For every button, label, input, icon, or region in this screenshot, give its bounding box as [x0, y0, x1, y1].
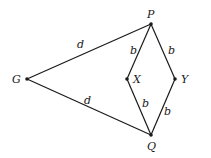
node-label-y: Y [181, 73, 190, 86]
edge-label-x-q: b [142, 97, 149, 110]
node-label-g: G [12, 73, 21, 86]
node-g [25, 77, 29, 81]
edge-label-g-p: d [77, 38, 84, 51]
edge-label-p-x: b [130, 44, 137, 57]
node-label-x: X [132, 73, 142, 86]
edge-y-q [151, 79, 175, 135]
node-label-q: Q [147, 140, 156, 153]
node-y [173, 77, 177, 81]
edge-g-q [27, 79, 151, 135]
edge-label-g-q: d [84, 94, 91, 107]
graph-diagram: P G X Y Q d d b b b b [0, 0, 211, 158]
edge-label-y-q: b [164, 105, 171, 118]
edge-label-p-y: b [168, 44, 175, 57]
node-label-p: P [146, 8, 155, 21]
node-q [149, 133, 153, 137]
node-p [149, 22, 153, 26]
node-x [125, 77, 129, 81]
